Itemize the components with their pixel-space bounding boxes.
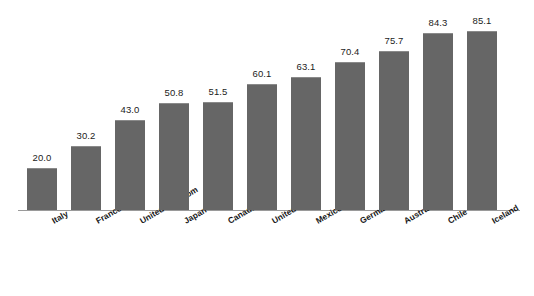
bar-value-label: 20.0 bbox=[20, 152, 64, 163]
bar[interactable] bbox=[467, 31, 497, 210]
x-axis-category-label: United Kingdom bbox=[138, 217, 143, 226]
bar-chart: 20.0Italy30.2France43.0United Kingdom50.… bbox=[0, 0, 534, 296]
bar-value-label: 50.8 bbox=[152, 87, 196, 98]
bar-value-label: 43.0 bbox=[108, 104, 152, 115]
bar-value-label: 60.1 bbox=[240, 68, 284, 79]
x-axis-category-label: Canada bbox=[226, 217, 231, 226]
bar-value-label: 75.7 bbox=[372, 35, 416, 46]
bar[interactable] bbox=[335, 62, 365, 210]
bar[interactable] bbox=[247, 84, 277, 210]
x-axis-category-label: Chile bbox=[446, 217, 451, 226]
bar[interactable] bbox=[27, 168, 57, 210]
bar-value-label: 63.1 bbox=[284, 61, 328, 72]
x-axis-category-label: Mexico bbox=[314, 217, 319, 226]
bar[interactable] bbox=[379, 51, 409, 210]
x-axis-category-label: Italy bbox=[50, 217, 55, 226]
bar[interactable] bbox=[159, 103, 189, 210]
bar-value-label: 30.2 bbox=[64, 130, 108, 141]
bar-value-label: 70.4 bbox=[328, 46, 372, 57]
bar-value-label: 85.1 bbox=[460, 15, 504, 26]
bar-value-label: 51.5 bbox=[196, 86, 240, 97]
x-axis-category-label: Germany bbox=[358, 217, 363, 226]
bar[interactable] bbox=[115, 120, 145, 210]
x-axis-category-label: France bbox=[94, 217, 99, 226]
x-axis-category-label: Iceland bbox=[490, 217, 495, 226]
x-axis-category-label: Japan bbox=[182, 217, 187, 226]
bar[interactable] bbox=[71, 146, 101, 210]
x-axis-category-label: United States bbox=[270, 217, 275, 226]
bar-value-label: 84.3 bbox=[416, 17, 460, 28]
x-axis-line bbox=[18, 210, 520, 211]
x-axis-category-label: Australia bbox=[402, 217, 407, 226]
bar[interactable] bbox=[291, 77, 321, 210]
plot-area: 20.0Italy30.2France43.0United Kingdom50.… bbox=[0, 0, 534, 296]
bar[interactable] bbox=[203, 102, 233, 210]
bar[interactable] bbox=[423, 33, 453, 210]
